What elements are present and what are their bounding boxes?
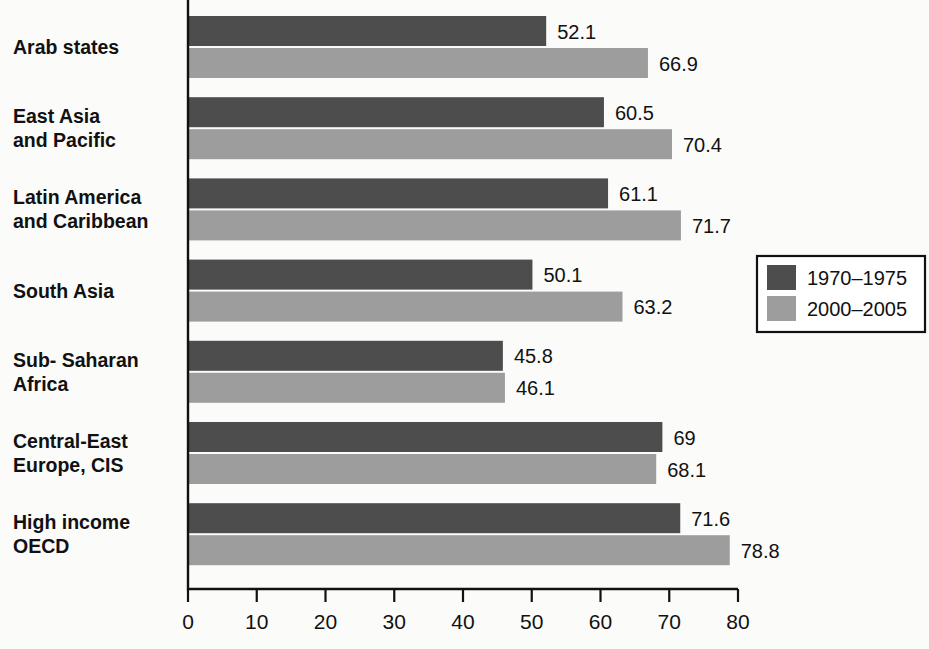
bar-value-label: 60.5: [615, 102, 654, 124]
legend-label: 2000–2005: [807, 298, 907, 320]
bar: [188, 422, 662, 452]
bar: [188, 129, 672, 159]
bar-value-label: 46.1: [516, 377, 555, 399]
category-label: and Pacific: [13, 129, 116, 151]
x-axis-tick-label: 70: [658, 610, 681, 633]
bar: [188, 97, 604, 127]
legend-swatch: [767, 265, 796, 290]
bar-value-label: 69: [673, 427, 695, 449]
category-labels-layer: Arab statesEast Asiaand PacificLatin Ame…: [13, 36, 148, 557]
category-label: and Caribbean: [13, 210, 148, 232]
x-axis-ticks: 01020304050607080: [182, 589, 750, 633]
category-label: East Asia: [13, 105, 100, 127]
bar: [188, 210, 681, 240]
bar: [188, 260, 532, 290]
category-label: Latin America: [13, 186, 141, 208]
bar: [188, 503, 680, 533]
bar: [188, 48, 648, 78]
horizontal-bar-chart: Arab statesEast Asiaand PacificLatin Ame…: [0, 0, 929, 649]
x-axis-tick-label: 20: [314, 610, 337, 633]
category-label: Europe, CIS: [13, 454, 124, 476]
x-axis-tick-label: 30: [383, 610, 406, 633]
bar-value-label: 66.9: [659, 53, 698, 75]
bar-value-label: 52.1: [557, 21, 596, 43]
x-axis-tick-label: 40: [451, 610, 474, 633]
bar-value-label: 70.4: [683, 134, 722, 156]
bar: [188, 16, 546, 46]
bar-value-label: 78.8: [741, 540, 780, 562]
bar-value-label: 63.2: [634, 296, 673, 318]
x-axis-tick-label: 80: [726, 610, 749, 633]
x-axis-tick-label: 60: [589, 610, 612, 633]
x-axis-tick-label: 50: [520, 610, 543, 633]
category-label: Arab states: [13, 36, 119, 58]
chart-legend: 1970–19752000–2005: [757, 256, 925, 332]
bars-layer: [188, 16, 730, 565]
x-axis-tick-label: 0: [182, 610, 194, 633]
category-label: OECD: [13, 535, 69, 557]
bar: [188, 178, 608, 208]
legend-swatch: [767, 296, 796, 321]
legend-label: 1970–1975: [807, 267, 907, 289]
bar: [188, 454, 656, 484]
bar-value-label: 61.1: [619, 183, 658, 205]
category-label: South Asia: [13, 280, 114, 302]
category-label: Central-East: [13, 430, 128, 452]
bar: [188, 341, 503, 371]
bar-value-label: 50.1: [543, 264, 582, 286]
bar-value-label: 45.8: [514, 345, 553, 367]
category-label: High income: [13, 511, 130, 533]
category-label: Africa: [13, 373, 68, 395]
chart-container: Arab statesEast Asiaand PacificLatin Ame…: [0, 0, 929, 649]
bar: [188, 373, 505, 403]
bar-value-label: 68.1: [667, 459, 706, 481]
x-axis-tick-label: 10: [245, 610, 268, 633]
bar-value-label: 71.6: [691, 508, 730, 530]
bar-value-label: 71.7: [692, 215, 731, 237]
category-label: Sub- Saharan: [13, 349, 139, 371]
bar: [188, 292, 623, 322]
bar: [188, 535, 730, 565]
